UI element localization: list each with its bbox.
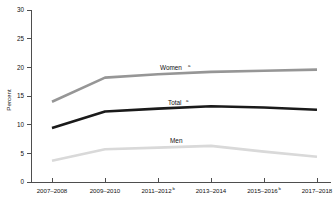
series-label-women: Women	[160, 64, 182, 71]
x-tick-label-2017-2018: 2017–2018	[302, 187, 333, 194]
x-tick-superscript-2011-2012: b	[173, 186, 176, 191]
x-tick-label-2015-2016-group: 2015–2016 b	[247, 186, 281, 194]
series-label-women-group: Women a	[160, 63, 191, 71]
y-tick-label-0: 0	[20, 178, 24, 185]
x-tick-label-2015-2016: 2015–2016	[247, 187, 278, 194]
series-label-total-superscript: a	[186, 98, 189, 103]
series-label-total-group: Total a	[168, 98, 189, 106]
y-tick-label-15: 15	[17, 92, 25, 99]
series-line-women	[52, 70, 317, 102]
series-label-men: Men	[170, 137, 183, 144]
x-tick-label-2011-2012: 2011–2012	[141, 187, 172, 194]
y-tick-label-5: 5	[20, 150, 24, 157]
y-tick-label-25: 25	[17, 35, 25, 42]
series-label-women-superscript: a	[188, 63, 191, 68]
series-label-total: Total	[168, 99, 182, 106]
x-tick-label-2007-2008: 2007–2008	[37, 187, 68, 194]
y-axis-title: Percent	[5, 89, 12, 111]
y-tick-label-10: 10	[17, 121, 25, 128]
x-tick-label-2013-2014: 2013–2014	[196, 187, 227, 194]
series-line-total	[52, 106, 317, 128]
chart-container: 30 25 20 15 10 5 0 Percent 2007–2008 200…	[0, 0, 335, 203]
y-tick-label-30: 30	[17, 6, 25, 13]
line-chart: 30 25 20 15 10 5 0 Percent 2007–2008 200…	[0, 0, 335, 203]
series-line-men	[52, 146, 317, 161]
y-tick-label-20: 20	[17, 64, 25, 71]
x-tick-superscript-2015-2016: b	[279, 186, 282, 191]
x-tick-label-2009-2010: 2009–2010	[90, 187, 121, 194]
x-tick-label-2011-2012-group: 2011–2012 b	[141, 186, 175, 194]
